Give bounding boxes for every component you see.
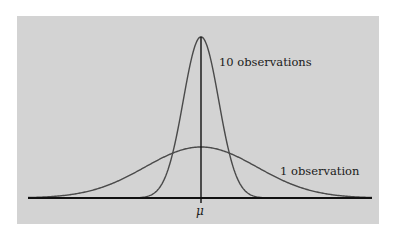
mean-label: μ (196, 204, 204, 218)
sampling-distribution-figure: μ 10 observations 1 observation (0, 0, 398, 239)
ten-observations-label: 10 observations (219, 55, 312, 69)
one-observation-label: 1 observation (280, 164, 360, 178)
